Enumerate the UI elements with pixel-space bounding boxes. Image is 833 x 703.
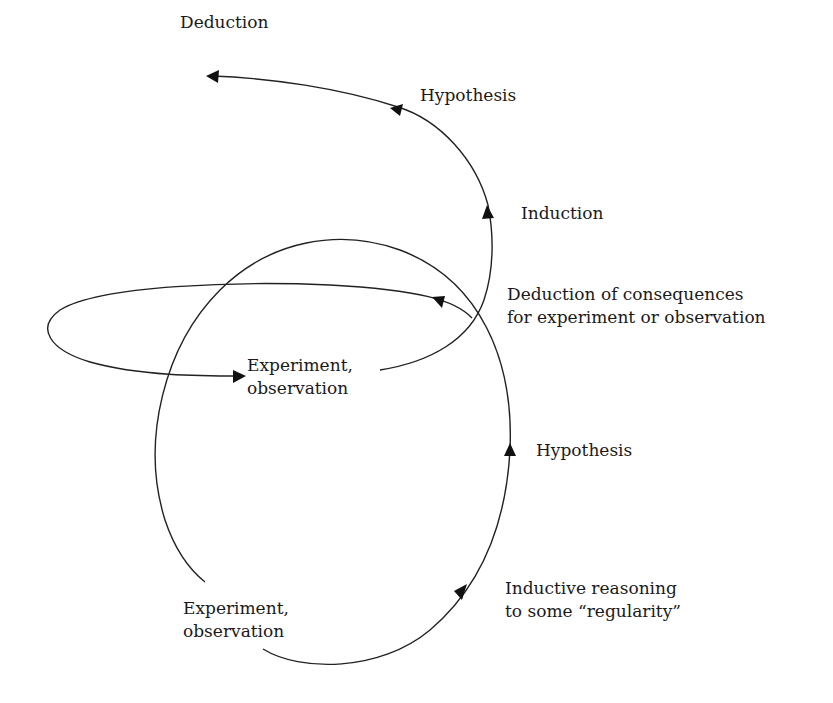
label-experiment-upper-line2: observation: [247, 378, 348, 399]
label-induction: Induction: [521, 203, 603, 224]
label-deduction-consequences-line1: Deduction of consequences: [507, 284, 743, 305]
arrowhead-hypothesis-lower-icon: [504, 443, 516, 456]
arrowhead-deduction-icon: [206, 70, 219, 83]
arrowhead-experiment-upper-icon: [233, 370, 246, 383]
label-hypothesis-lower: Hypothesis: [536, 440, 632, 461]
arrowhead-deduction-consequences-icon: [432, 296, 445, 308]
label-inductive-line2: to some “regularity”: [505, 601, 681, 622]
label-experiment-upper-line1: Experiment,: [247, 355, 353, 376]
arrowhead-induction-icon: [482, 205, 494, 219]
label-inductive-line1: Inductive reasoning: [505, 578, 677, 599]
label-top-deduction: Deduction: [180, 12, 269, 33]
label-experiment-lower-line1: Experiment,: [183, 598, 289, 619]
label-experiment-lower-line2: observation: [183, 621, 284, 642]
label-top-hypothesis: Hypothesis: [420, 85, 516, 106]
spiral-diagram: [0, 0, 833, 703]
upper-spiral-curve: [212, 76, 492, 370]
label-deduction-consequences-line2: for experiment or observation: [507, 307, 766, 328]
